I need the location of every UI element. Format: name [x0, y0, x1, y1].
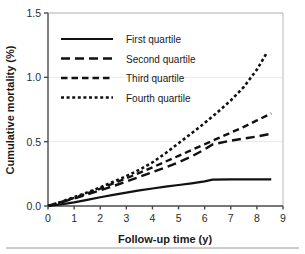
y-tick-label: 0.0 [26, 200, 41, 212]
legend-label-third-quartile: Third quartile [126, 73, 185, 84]
x-tick-label: 6 [202, 212, 208, 224]
y-tick-label: 1.5 [26, 7, 41, 19]
figure-panel: 0123456789 0.00.51.01.5 Follow-up time (… [0, 0, 305, 254]
legend-label-fourth-quartile: Fourth quartile [126, 93, 191, 104]
y-tick-label: 1.0 [26, 71, 41, 83]
x-tick-label: 7 [228, 212, 234, 224]
x-tick-label: 5 [176, 212, 182, 224]
x-axis-title: Follow-up time (y) [118, 233, 212, 245]
x-tick-label: 1 [71, 212, 77, 224]
x-tick-label: 4 [150, 212, 156, 224]
x-tick-label: 2 [97, 212, 103, 224]
y-tick-label: 0.5 [26, 136, 41, 148]
legend-label-first-quartile: First quartile [126, 34, 181, 45]
legend-label-second-quartile: Second quartile [126, 54, 196, 65]
x-tick-label: 0 [45, 212, 51, 224]
cumulative-mortality-line-chart: 0123456789 0.00.51.01.5 Follow-up time (… [0, 0, 305, 254]
y-axis-title: Cumulative mortality (%) [4, 45, 16, 174]
x-tick-label: 8 [254, 212, 260, 224]
x-tick-label: 3 [123, 212, 129, 224]
x-tick-label: 9 [280, 212, 286, 224]
